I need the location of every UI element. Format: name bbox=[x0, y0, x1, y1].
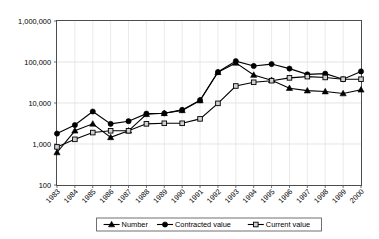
marker-open-square bbox=[73, 137, 78, 142]
legend-label: Number bbox=[122, 220, 149, 229]
marker-open-square bbox=[108, 128, 113, 133]
marker-filled-circle bbox=[215, 69, 220, 74]
y-tick-label: 10,000 bbox=[28, 99, 51, 108]
marker-open-square bbox=[323, 75, 328, 80]
marker-filled-circle bbox=[90, 109, 95, 114]
marker-filled-circle bbox=[180, 107, 185, 112]
marker-filled-circle bbox=[358, 69, 363, 74]
marker-open-square bbox=[234, 84, 239, 89]
marker-open-square bbox=[162, 121, 167, 126]
marker-filled-circle bbox=[144, 111, 149, 116]
marker-open-square bbox=[269, 78, 274, 83]
chart-container: 1,000,000100,00010,0001,000100 198319841… bbox=[0, 0, 379, 239]
y-tick-label: 100 bbox=[39, 181, 51, 190]
marker-open-square bbox=[198, 117, 203, 122]
marker-filled-circle bbox=[197, 98, 202, 103]
marker-filled-circle bbox=[162, 111, 167, 116]
marker-filled-circle bbox=[72, 122, 77, 127]
marker-filled-circle bbox=[269, 61, 274, 66]
marker-open-square bbox=[251, 80, 256, 85]
line-chart: 1,000,000100,00010,0001,000100 198319841… bbox=[0, 0, 379, 239]
marker-filled-circle bbox=[54, 131, 59, 136]
marker-filled-circle bbox=[126, 119, 131, 124]
marker-open-square bbox=[287, 76, 292, 81]
marker-open-square bbox=[55, 145, 60, 150]
marker-open-square bbox=[254, 222, 259, 227]
marker-filled-circle bbox=[251, 63, 256, 68]
chart-legend: NumberContracted valueCurrent value bbox=[97, 218, 322, 231]
legend-label: Current value bbox=[266, 220, 310, 229]
marker-open-square bbox=[180, 121, 185, 126]
marker-open-square bbox=[216, 101, 221, 106]
y-tick-label: 1,000,000 bbox=[18, 17, 51, 26]
marker-open-square bbox=[341, 77, 346, 82]
marker-filled-circle bbox=[287, 66, 292, 71]
marker-open-square bbox=[305, 74, 310, 79]
marker-filled-circle bbox=[162, 222, 167, 227]
y-tick-label: 100,000 bbox=[24, 58, 51, 67]
marker-filled-circle bbox=[233, 59, 238, 64]
marker-open-square bbox=[126, 128, 131, 133]
y-tick-label: 1,000 bbox=[33, 140, 52, 149]
marker-open-square bbox=[90, 130, 95, 135]
marker-open-square bbox=[144, 122, 149, 127]
legend-label: Contracted value bbox=[175, 220, 231, 229]
marker-open-square bbox=[359, 77, 364, 82]
marker-filled-circle bbox=[108, 121, 113, 126]
